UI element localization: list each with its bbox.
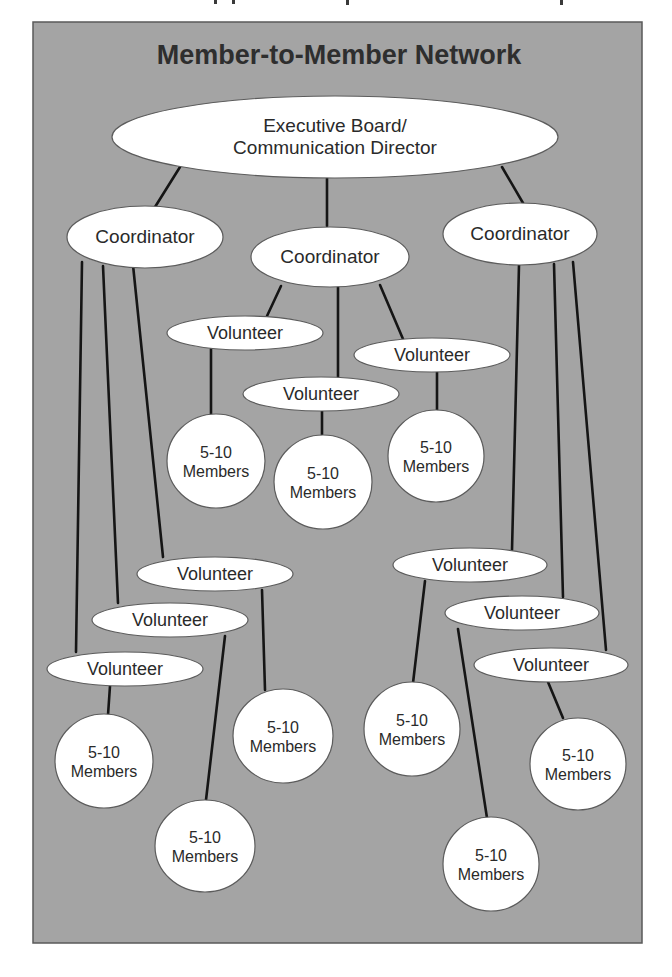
node-label: Members: [183, 463, 250, 480]
node-label: Executive Board/: [263, 115, 407, 136]
node-members-mem-l3: 5-10Members: [55, 714, 153, 808]
node-label: 5-10: [200, 444, 232, 461]
node-volunteer-vol-m2: Volunteer: [243, 377, 399, 411]
cropped-text-fragment: [214, 0, 563, 5]
node-label: 5-10: [307, 465, 339, 482]
node-label: Volunteer: [177, 564, 253, 584]
node-members-mem-l2: 5-10Members: [155, 800, 255, 892]
node-label: Volunteer: [207, 323, 283, 343]
member-group-circle: [443, 817, 539, 911]
node-volunteer-vol-l2: Volunteer: [92, 603, 248, 637]
member-group-circle: [388, 410, 484, 502]
node-label: Members: [71, 763, 138, 780]
node-label: Volunteer: [432, 555, 508, 575]
member-group-circle: [274, 435, 372, 529]
node-label: Volunteer: [394, 345, 470, 365]
node-volunteer-vol-r2: Volunteer: [445, 596, 599, 630]
node-label: Volunteer: [132, 610, 208, 630]
node-label: Volunteer: [484, 603, 560, 623]
member-group-circle: [155, 800, 255, 892]
node-label: Volunteer: [283, 384, 359, 404]
member-group-circle: [55, 714, 153, 808]
node-label: Volunteer: [87, 659, 163, 679]
node-label: 5-10: [396, 712, 428, 729]
node-label: Coordinator: [280, 246, 380, 267]
node-members-mem-m2: 5-10Members: [274, 435, 372, 529]
node-coordinator-coord-mid: Coordinator: [251, 227, 409, 287]
node-label: Communication Director: [233, 137, 437, 158]
node-label: 5-10: [475, 847, 507, 864]
node-label: Members: [379, 731, 446, 748]
node-label: Members: [458, 866, 525, 883]
node-members-mem-m1: 5-10Members: [167, 414, 265, 508]
node-label: Volunteer: [513, 655, 589, 675]
node-volunteer-vol-m3: Volunteer: [354, 338, 510, 372]
node-label: 5-10: [562, 747, 594, 764]
node-label: 5-10: [267, 719, 299, 736]
node-members-mem-r2: 5-10Members: [443, 817, 539, 911]
node-coordinator-coord-right: Coordinator: [443, 203, 597, 265]
node-members-mem-m3: 5-10Members: [388, 410, 484, 502]
diagram-title: Member-to-Member Network: [157, 40, 523, 70]
node-label: Members: [290, 484, 357, 501]
node-volunteer-vol-l3: Volunteer: [47, 652, 203, 686]
node-label: Members: [403, 458, 470, 475]
member-group-circle: [364, 682, 460, 776]
node-label: 5-10: [88, 744, 120, 761]
node-volunteer-vol-r1: Volunteer: [393, 548, 547, 582]
node-volunteer-vol-r3: Volunteer: [474, 648, 628, 682]
node-members-mem-l1: 5-10Members: [233, 689, 333, 783]
node-volunteer-vol-m1: Volunteer: [167, 316, 323, 350]
node-label: Members: [250, 738, 317, 755]
node-label: Coordinator: [470, 223, 570, 244]
node-label: Coordinator: [95, 226, 195, 247]
member-group-circle: [530, 718, 626, 810]
node-members-mem-r3: 5-10Members: [530, 718, 626, 810]
node-label: Members: [545, 766, 612, 783]
node-members-mem-r1: 5-10Members: [364, 682, 460, 776]
node-volunteer-vol-l1: Volunteer: [137, 557, 293, 591]
member-group-circle: [233, 689, 333, 783]
node-label: 5-10: [420, 439, 452, 456]
node-label: 5-10: [189, 829, 221, 846]
node-executive-exec: Executive Board/Communication Director: [112, 96, 558, 178]
network-diagram: Member-to-Member Network Executive Board…: [0, 0, 672, 977]
node-label: Members: [172, 848, 239, 865]
member-group-circle: [167, 414, 265, 508]
node-coordinator-coord-left: Coordinator: [67, 206, 223, 268]
